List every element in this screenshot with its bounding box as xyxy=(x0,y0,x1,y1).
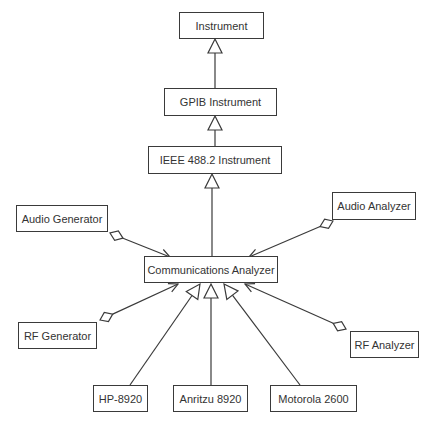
class-rf-generator[interactable]: RF Generator xyxy=(18,322,97,349)
class-ieee-488-2-instrument[interactable]: IEEE 488.2 Instrument xyxy=(148,146,282,174)
aggregation-diamond-icon xyxy=(110,231,123,240)
class-label: Motorola 2600 xyxy=(278,393,348,405)
aggregation-line xyxy=(245,284,333,323)
class-label: RF Analyzer xyxy=(355,339,415,351)
class-label: Instrument xyxy=(196,20,248,32)
generalization-arrowhead-icon xyxy=(208,39,222,53)
class-audio-generator[interactable]: Audio Generator xyxy=(16,205,108,232)
class-label: HP-8920 xyxy=(99,393,142,405)
aggregation-line xyxy=(249,227,320,257)
aggregation-line xyxy=(123,238,170,257)
class-instrument[interactable]: Instrument xyxy=(179,12,264,39)
class-label: Anritzu 8920 xyxy=(180,393,242,405)
class-communications-analyzer[interactable]: Communications Analyzer xyxy=(144,256,278,283)
class-gpib-instrument[interactable]: GPIB Instrument xyxy=(164,88,277,116)
aggregation-diamond-icon xyxy=(100,313,113,322)
class-rf-analyzer[interactable]: RF Analyzer xyxy=(350,331,419,358)
class-audio-analyzer[interactable]: Audio Analyzer xyxy=(332,192,416,220)
class-label: IEEE 488.2 Instrument xyxy=(160,154,271,166)
aggregation-diamond-icon xyxy=(320,219,333,228)
class-label: GPIB Instrument xyxy=(180,96,261,108)
generalization-arrowhead-icon xyxy=(204,284,218,298)
class-label: Audio Analyzer xyxy=(337,200,410,212)
class-anritzu-8920[interactable]: Anritzu 8920 xyxy=(173,385,248,412)
generalization-arrowhead-icon xyxy=(205,174,219,188)
aggregation-line xyxy=(113,284,178,314)
class-motorola-2600[interactable]: Motorola 2600 xyxy=(270,385,357,412)
generalization-arrowhead-icon xyxy=(224,284,238,299)
generalization-arrowhead-icon xyxy=(186,284,200,299)
class-label: Communications Analyzer xyxy=(147,264,274,276)
generalization-line xyxy=(232,295,300,385)
generalization-line xyxy=(130,296,192,385)
generalization-arrowhead-icon xyxy=(208,116,222,130)
class-label: Audio Generator xyxy=(22,213,103,225)
class-hp-8920[interactable]: HP-8920 xyxy=(93,385,148,412)
class-label: RF Generator xyxy=(24,330,91,342)
aggregation-diamond-icon xyxy=(333,322,346,331)
